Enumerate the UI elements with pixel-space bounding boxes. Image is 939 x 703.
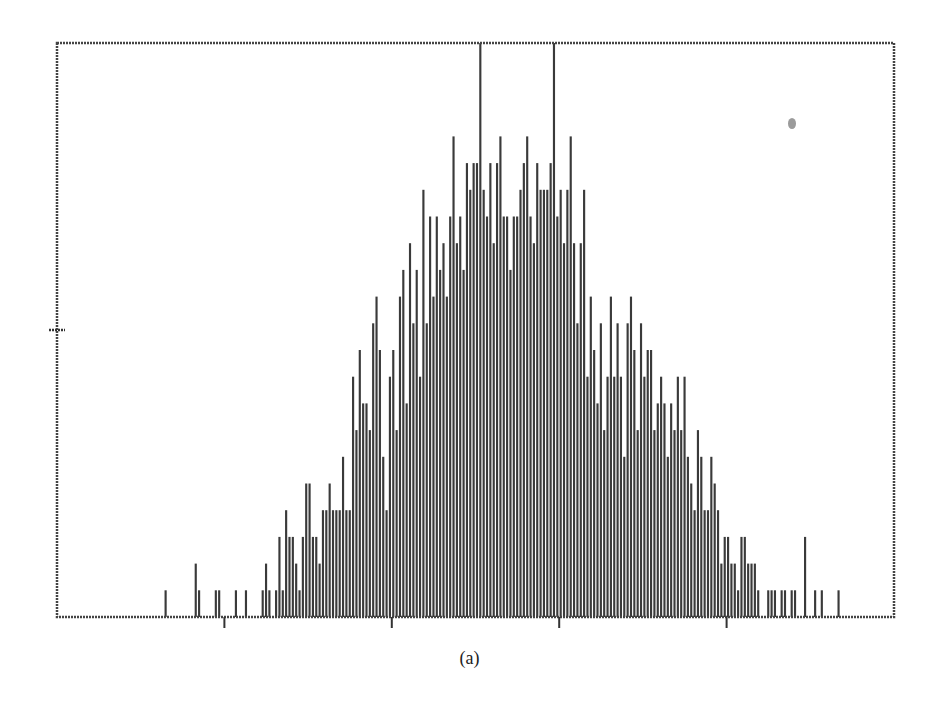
figure-caption: (a) [0, 648, 939, 669]
histogram-bar [680, 430, 682, 617]
histogram-bar [235, 590, 237, 617]
histogram-bar [771, 590, 773, 617]
histogram-bar [195, 564, 197, 617]
histogram-bar [315, 537, 317, 617]
histogram-bar [566, 190, 568, 617]
histogram-bar [606, 377, 608, 617]
histogram-bar [436, 217, 438, 618]
histogram-bar [456, 243, 458, 617]
histogram-bar [740, 537, 742, 617]
histogram-bar [345, 510, 347, 617]
histogram-bar [737, 590, 739, 617]
histogram-bar [382, 457, 384, 617]
histogram-bar [432, 297, 434, 617]
histogram-bar [647, 350, 649, 617]
histogram-bar [523, 163, 525, 617]
histogram-bar [821, 590, 823, 617]
histogram-bar [245, 590, 247, 617]
histogram-bar [469, 190, 471, 617]
histogram-bar [694, 510, 696, 617]
histogram-bar [262, 590, 264, 617]
histogram-bar [493, 243, 495, 617]
histogram-chart [0, 0, 939, 703]
histogram-bar [683, 377, 685, 617]
histogram-bar [620, 377, 622, 617]
histogram-bar [278, 537, 280, 617]
histogram-bar [275, 590, 277, 617]
histogram-bar [670, 403, 672, 617]
histogram-bar [714, 484, 716, 618]
histogram-bar [734, 564, 736, 617]
histogram-bar [794, 590, 796, 617]
histogram-bar [573, 243, 575, 617]
histogram-bar [372, 323, 374, 617]
histogram-bar [553, 43, 555, 617]
histogram-bar [804, 537, 806, 617]
histogram-bar [375, 297, 377, 617]
histogram-bar [449, 217, 451, 618]
histogram-bar [396, 430, 398, 617]
histogram-bar [563, 243, 565, 617]
histogram-bar [660, 377, 662, 617]
histogram-bar [379, 350, 381, 617]
histogram-bar [747, 564, 749, 617]
histogram-bar [687, 457, 689, 617]
histogram-bar [667, 457, 669, 617]
histogram-bar [499, 136, 501, 617]
histogram-bar [355, 430, 357, 617]
histogram-bar [312, 537, 314, 617]
histogram-bar [165, 590, 167, 617]
histogram-bar [446, 297, 448, 617]
plot-frame [57, 43, 894, 617]
smudge-dot [788, 118, 796, 129]
histogram-bar [513, 217, 515, 618]
histogram-bar [784, 590, 786, 617]
histogram-bar [386, 510, 388, 617]
histogram-bar [402, 270, 404, 617]
histogram-bar [329, 484, 331, 618]
histogram-bar [439, 270, 441, 617]
histogram-bar [710, 457, 712, 617]
histogram-bar [627, 323, 629, 617]
histogram-bar [774, 590, 776, 617]
histogram-bar [663, 403, 665, 617]
histogram-bar [837, 590, 839, 617]
histogram-bar [198, 590, 200, 617]
histogram-bar [422, 190, 424, 617]
histogram-bar [342, 457, 344, 617]
histogram-bar [617, 323, 619, 617]
histogram-bar [442, 243, 444, 617]
histogram-bar [814, 590, 816, 617]
histogram-bar [717, 510, 719, 617]
histogram-bar [533, 243, 535, 617]
histogram-bar [550, 163, 552, 617]
histogram-bar [489, 163, 491, 617]
histogram-bar [389, 377, 391, 617]
histogram-bar [744, 537, 746, 617]
histogram-bar [285, 510, 287, 617]
histogram-bar [570, 136, 572, 617]
histogram-bar [590, 297, 592, 617]
histogram-bar [781, 590, 783, 617]
histogram-bar [466, 163, 468, 617]
histogram-bar [359, 350, 361, 617]
histogram-bar [426, 323, 428, 617]
histogram-bar [583, 190, 585, 617]
histogram-bar [509, 270, 511, 617]
histogram-bar [536, 163, 538, 617]
histogram-bar [540, 190, 542, 617]
histogram-bar [610, 297, 612, 617]
histogram-bar [730, 564, 732, 617]
histogram-bar [302, 537, 304, 617]
histogram-bar [265, 564, 267, 617]
histogram-bar [754, 564, 756, 617]
histogram-bar [613, 377, 615, 617]
histogram-bar [409, 243, 411, 617]
histogram-bar [429, 217, 431, 618]
histogram-bar [215, 590, 217, 617]
histogram-bar [657, 403, 659, 617]
histogram-bar [630, 297, 632, 617]
histogram-bar [473, 163, 475, 617]
histogram-bar [459, 217, 461, 618]
histogram-bar [399, 297, 401, 617]
